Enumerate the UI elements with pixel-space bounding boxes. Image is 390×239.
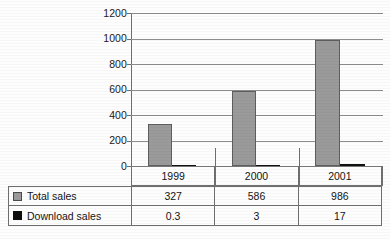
table-row: Download sales 0.3 3 17: [8, 206, 382, 226]
y-tick-label-200: 200: [85, 135, 127, 145]
gridline-800: [131, 64, 383, 65]
column-separator: [382, 166, 383, 186]
plot-area: [131, 13, 383, 166]
legend-label-download-sales: Download sales: [27, 210, 101, 222]
cell-download-sales-2001: 17: [298, 206, 382, 226]
legend-total-sales: Total sales: [8, 186, 131, 206]
y-tick-label-400: 400: [85, 110, 127, 120]
table-header-2001: 2001: [298, 166, 382, 186]
cell-total-sales-2001: 986: [298, 186, 382, 206]
table-header-1999: 1999: [131, 166, 214, 186]
figure-caption: [8, 231, 268, 239]
legend-label-total-sales: Total sales: [27, 190, 77, 202]
cell-download-sales-1999: 0.3: [131, 206, 214, 226]
y-tick-label-600: 600: [85, 84, 127, 94]
cell-total-sales-1999: 327: [131, 186, 214, 206]
bar-total-sales-1999: [148, 124, 172, 166]
grey-square-icon: [13, 192, 22, 201]
table-row: Total sales 327 586 986: [8, 186, 382, 206]
bar-total-sales-2001: [315, 40, 340, 166]
cell-total-sales-2000: 586: [214, 186, 297, 206]
gridline-1200: [131, 13, 383, 14]
y-tick-label-800: 800: [85, 59, 127, 69]
y-tick-label-1200: 1200: [85, 8, 127, 18]
gridline-400: [131, 115, 383, 116]
y-tick-label-1000: 1000: [85, 33, 127, 43]
gridline-1000: [131, 39, 383, 40]
data-table: 1999 2000 2001 Total sales 327 586 986 D…: [8, 166, 382, 226]
cell-download-sales-2000: 3: [214, 206, 297, 226]
gridline-600: [131, 90, 383, 91]
table-corner-cell: [8, 166, 131, 186]
table-header-row: 1999 2000 2001: [8, 166, 382, 186]
chart-figure: 1200 1000 800 600 400 200 0: [0, 0, 390, 239]
bar-total-sales-2000: [232, 91, 256, 166]
black-square-icon: [13, 211, 22, 220]
table-header-2000: 2000: [214, 166, 297, 186]
legend-download-sales: Download sales: [8, 206, 131, 226]
